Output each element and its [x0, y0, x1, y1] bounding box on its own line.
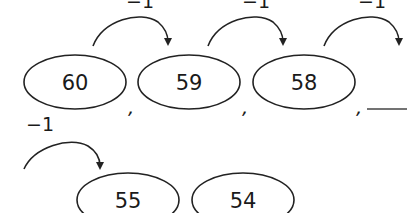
- number-bubble-59: 59: [138, 55, 240, 109]
- comma-separator-3: ,: [356, 95, 362, 119]
- minus-one-arrow-2: [208, 17, 283, 46]
- step-label-3: −1: [358, 0, 386, 12]
- number-value: 54: [230, 189, 257, 213]
- comma-separator-1: ,: [128, 95, 134, 119]
- minus-one-arrow-1: [93, 17, 168, 46]
- number-value: 55: [115, 189, 142, 213]
- step-label-4: −1: [26, 113, 54, 135]
- step-label-1: −1: [126, 0, 154, 12]
- number-bubble-55: 55: [77, 173, 179, 213]
- step-label-2: −1: [242, 0, 270, 12]
- number-value: 59: [176, 71, 203, 95]
- number-value: 60: [62, 71, 89, 95]
- number-bubble-54: 54: [192, 173, 294, 213]
- minus-one-arrow-4: [24, 142, 100, 169]
- number-bubble-58: 58: [253, 55, 355, 109]
- comma-separator-2: ,: [242, 95, 248, 119]
- number-value: 58: [291, 71, 318, 95]
- number-sequence-worksheet: −1 −1 −1 60 59 58 , , , −1 55 54: [0, 0, 407, 213]
- number-bubble-60: 60: [24, 55, 126, 109]
- minus-one-arrow-3: [324, 17, 399, 46]
